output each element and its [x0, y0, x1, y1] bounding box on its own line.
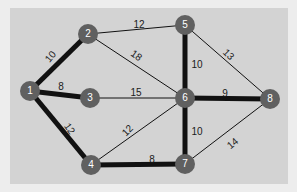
- node-label: 8: [267, 93, 273, 104]
- node-label: 7: [182, 158, 188, 169]
- edge-weight-label: 15: [130, 87, 142, 98]
- edge-weight-label: 9: [222, 88, 228, 99]
- graph-diagram: 10812121815128101391014 12345678: [0, 0, 297, 192]
- node-label: 3: [87, 92, 93, 103]
- node-label: 2: [85, 28, 91, 39]
- node-label: 5: [182, 19, 188, 30]
- node-label: 6: [182, 92, 188, 103]
- edge-4-7: [91, 164, 185, 165]
- node-2: 2: [78, 24, 98, 44]
- edge-weight-label: 8: [58, 81, 64, 92]
- node-label: 4: [88, 159, 94, 170]
- node-3: 3: [80, 88, 100, 108]
- node-label: 1: [27, 85, 33, 96]
- node-5: 5: [175, 15, 195, 35]
- edge-weight-label: 10: [191, 126, 203, 137]
- node-4: 4: [81, 155, 101, 175]
- node-8: 8: [260, 89, 280, 109]
- node-7: 7: [175, 154, 195, 174]
- edge-weight-label: 12: [133, 19, 145, 30]
- edge-weight-label: 8: [149, 154, 155, 165]
- node-6: 6: [175, 88, 195, 108]
- edge-weight-label: 10: [191, 59, 203, 70]
- node-1: 1: [20, 81, 40, 101]
